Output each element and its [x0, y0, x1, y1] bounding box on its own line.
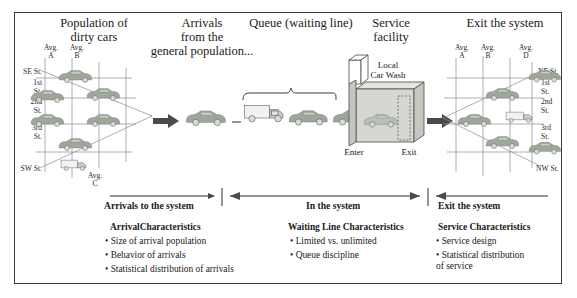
- section-span-arrows: [110, 188, 548, 206]
- diagram-graphics: [0, 0, 577, 298]
- service-facility-building: [349, 55, 424, 146]
- left-grid-car-3: [87, 88, 119, 100]
- queue-brace: [243, 88, 336, 100]
- arriving-car: [186, 111, 225, 126]
- arrival-arrow: [153, 114, 179, 128]
- queue-truck: [244, 105, 283, 122]
- queue-car-1: [289, 111, 327, 125]
- left-grid-car-2: [31, 90, 63, 102]
- right-grid-car-1: [486, 88, 518, 100]
- left-grid-car-5: [87, 114, 119, 126]
- right-grid-car-2: [458, 114, 490, 126]
- diagram-root: Population of dirty cars Arrivals from t…: [0, 0, 577, 298]
- left-grid-car-6: [59, 138, 91, 150]
- left-grid-car-1: [59, 70, 91, 82]
- left-grid-truck: [61, 160, 86, 170]
- right-grid-car-4: [529, 70, 560, 82]
- right-grid-car-3: [486, 136, 518, 148]
- left-grid-car-4: [31, 114, 63, 126]
- right-grid-truck: [506, 112, 532, 122]
